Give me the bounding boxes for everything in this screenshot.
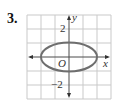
- y-tick-label-2: 2: [60, 22, 66, 34]
- origin-label: O: [58, 57, 66, 69]
- x-axis-label: x: [102, 57, 108, 69]
- y-axis-label: y: [71, 11, 77, 23]
- ellipse-graph: y x O 2 −2: [0, 0, 115, 106]
- y-axis-down-arrow-icon: [67, 93, 71, 98]
- y-axis-up-arrow-icon: [67, 15, 71, 20]
- y-tick-label-neg2: −2: [51, 78, 63, 90]
- x-axis-left-arrow-icon: [28, 55, 33, 59]
